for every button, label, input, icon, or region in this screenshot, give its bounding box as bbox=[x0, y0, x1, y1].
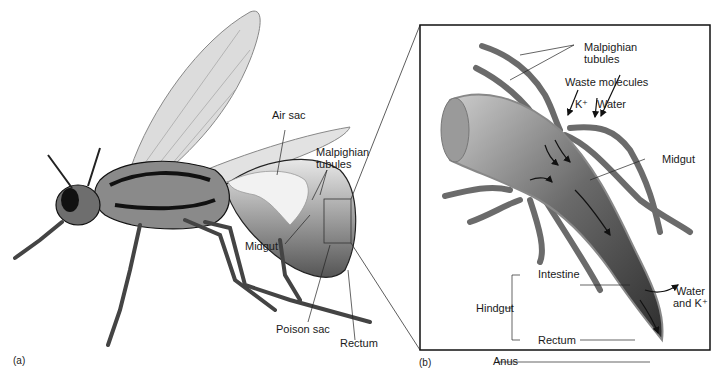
wasp-illustration bbox=[15, 11, 420, 350]
label-water: Water bbox=[597, 98, 626, 110]
label-anus: Anus bbox=[493, 355, 518, 367]
label-malpighian-b-1: Malpighian bbox=[584, 41, 637, 53]
panel-b-tag: (b) bbox=[419, 357, 431, 368]
label-malpighian-a-2: tubules bbox=[316, 158, 351, 170]
label-hindgut: Hindgut bbox=[476, 302, 514, 314]
label-water-and-k-1: Water bbox=[676, 285, 705, 297]
panel-a-tag: (a) bbox=[13, 355, 25, 366]
label-poison-sac: Poison sac bbox=[276, 323, 330, 335]
label-rectum-a: Rectum bbox=[340, 337, 378, 349]
label-waste-molecules: Waste molecules bbox=[565, 76, 648, 88]
label-malpighian-b-2: tubules bbox=[584, 53, 619, 65]
label-midgut-b: Midgut bbox=[662, 153, 695, 165]
label-water-and-k-2: and K⁺ bbox=[673, 297, 708, 309]
label-malpighian-a-1: Malpighian bbox=[316, 146, 369, 158]
label-midgut-a: Midgut bbox=[245, 240, 278, 252]
label-intestine: Intestine bbox=[538, 268, 580, 280]
label-k-plus: K⁺ bbox=[575, 98, 588, 110]
label-air-sac: Air sac bbox=[272, 109, 306, 121]
label-rectum-b: Rectum bbox=[538, 334, 576, 346]
